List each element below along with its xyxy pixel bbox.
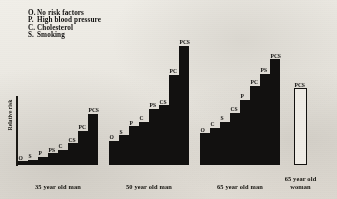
bar-pcs	[294, 88, 307, 165]
bar-label-pc: PC	[170, 68, 177, 74]
bar-label-pcs: PCS	[271, 53, 281, 59]
bar-pcs	[179, 46, 189, 165]
y-axis-label: Relative risk	[7, 92, 13, 138]
bar-s	[119, 135, 129, 165]
bar-s	[28, 160, 38, 165]
bar-label-pcs: PCS	[89, 107, 99, 113]
bar-c	[139, 122, 149, 165]
bar-pcs	[88, 114, 98, 165]
bar-label-o: O	[110, 134, 114, 140]
bar-o	[18, 161, 28, 165]
bar-label-p: P	[39, 150, 42, 156]
bar-label-ps: PS	[49, 147, 55, 153]
bar-label-cs: CS	[69, 137, 76, 143]
bar-label-p: P	[241, 93, 244, 99]
bar-ps	[48, 153, 58, 165]
bar-label-ps: PS	[150, 102, 156, 108]
bar-cs	[68, 143, 78, 165]
bar-p	[129, 126, 139, 165]
bar-p	[38, 157, 48, 165]
bar-cs	[159, 105, 169, 165]
legend-label-s: Smoking	[37, 32, 65, 39]
bar-cs	[230, 113, 240, 165]
bar-pc	[78, 131, 88, 165]
bar-pcs	[270, 59, 280, 165]
legend-item-smoking: S. Smoking	[28, 32, 101, 39]
bar-label-pc: PC	[251, 79, 258, 85]
x-axis-label-1: 35 year old man	[6, 183, 110, 191]
bar-pc	[169, 75, 179, 165]
bar-chart: O. No risk factors P. High blood pressur…	[0, 0, 337, 199]
bar-label-o: O	[201, 127, 205, 133]
bar-c	[58, 150, 68, 165]
bar-label-c: C	[211, 121, 215, 127]
bar-label-pc: PC	[79, 124, 86, 130]
x-axis-label-2: 50 year old man	[97, 183, 201, 191]
x-axis-label-4: 65 year old woman	[282, 175, 319, 191]
bar-label-o: O	[19, 155, 23, 161]
bar-p	[240, 100, 250, 165]
bar-label-pcs: PCS	[180, 39, 190, 45]
bar-c	[210, 128, 220, 165]
bar-label-ps: PS	[261, 67, 267, 73]
bar-label-cs: CS	[231, 106, 238, 112]
bar-label-cs: CS	[160, 99, 167, 105]
bar-label-s: S	[221, 115, 224, 121]
bar-ps	[260, 74, 270, 165]
bar-s	[220, 122, 230, 165]
chart-page: O. No risk factors P. High blood pressur…	[0, 0, 337, 199]
bar-label-pcs: PCS	[295, 82, 305, 88]
y-axis-line	[16, 96, 18, 166]
bar-ps	[149, 109, 159, 165]
bar-o	[200, 133, 210, 165]
bar-label-s: S	[120, 129, 123, 135]
bar-o	[109, 141, 119, 165]
legend-key-s: S.	[28, 32, 37, 39]
bar-label-c: C	[140, 115, 144, 121]
bar-label-p: P	[130, 120, 133, 126]
bar-label-s: S	[29, 153, 32, 159]
bar-label-c: C	[59, 143, 63, 149]
legend: O. No risk factors P. High blood pressur…	[28, 10, 101, 40]
x-axis-label-3: 65 year old man	[188, 183, 292, 191]
bar-pc	[250, 86, 260, 166]
